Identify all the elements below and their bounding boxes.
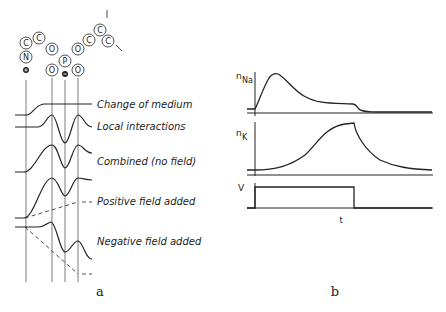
v-trace xyxy=(247,187,432,208)
atom-c: C xyxy=(105,37,111,46)
svg-text:n: n xyxy=(236,71,242,81)
time-axis-label: t xyxy=(339,216,342,225)
combined-curve xyxy=(15,145,92,172)
figure: N C C O P O C C C O O Change o xyxy=(0,0,446,312)
change-of-medium-curve xyxy=(15,104,92,115)
atom-o: O xyxy=(49,66,55,75)
n-na-trace xyxy=(247,74,432,112)
atom-p: P xyxy=(63,57,68,66)
atom-c: C xyxy=(97,26,103,35)
curve-label: Negative field added xyxy=(97,236,202,247)
n-na-axis-label: n Na xyxy=(236,71,253,85)
v-axis-label: V xyxy=(238,183,245,193)
positive-field-curve xyxy=(15,178,92,218)
atom-c: C xyxy=(36,34,42,43)
curve-label: Change of medium xyxy=(97,99,193,110)
negative-field-curve xyxy=(15,222,92,259)
atom-o: O xyxy=(75,45,81,54)
negative-charge-icon xyxy=(62,71,68,77)
local-interactions-curve xyxy=(15,115,92,143)
curve-label: Positive field added xyxy=(97,196,196,207)
atom-o: O xyxy=(49,45,55,54)
atom-o: O xyxy=(75,66,81,75)
atom-c: C xyxy=(23,39,29,48)
curve-label: Local interactions xyxy=(97,121,186,132)
svg-text:Na: Na xyxy=(242,76,253,85)
atom-labels: N C C O P O C C C O O xyxy=(23,26,111,75)
atom-c: C xyxy=(86,36,92,45)
curve-label: Combined (no field) xyxy=(97,156,196,167)
svg-text:n: n xyxy=(236,128,242,138)
positive-charge-icon xyxy=(23,67,29,73)
negative-field-dashed-line xyxy=(25,227,92,274)
svg-text:K: K xyxy=(242,133,248,142)
panel-b-label: b xyxy=(331,284,339,299)
n-k-axis-label: n K xyxy=(236,128,248,142)
panel-a-label: a xyxy=(96,284,104,299)
n-k-trace xyxy=(247,123,432,170)
atom-n: N xyxy=(23,53,29,62)
